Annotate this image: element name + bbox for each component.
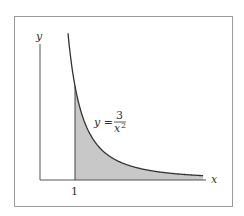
svg-text:y =: y = — [93, 116, 113, 129]
svg-text:2: 2 — [121, 121, 126, 130]
chart-plot: y x 1 y = 3 x 2 — [0, 0, 244, 216]
svg-text:x: x — [114, 122, 121, 135]
x-axis-label: x — [211, 173, 218, 186]
function-annotation: y = 3 x 2 — [93, 109, 126, 135]
shaded-area — [75, 86, 203, 180]
y-axis-label: y — [35, 30, 43, 43]
x-tick-1: 1 — [71, 185, 78, 198]
